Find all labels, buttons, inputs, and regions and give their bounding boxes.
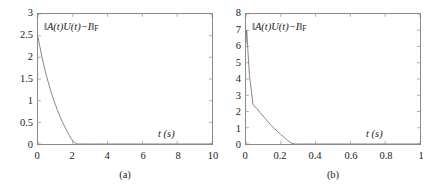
y-tick-label-a-3: 1.5	[8, 74, 33, 85]
x-tick-label-b-0: 0	[242, 151, 247, 162]
y-tick-label-b-7: 7	[220, 24, 241, 35]
y-tick-label-b-6: 6	[220, 41, 241, 52]
annot-b-subscript: F	[302, 24, 306, 33]
y-tick-label-b-5: 5	[220, 57, 241, 68]
plot-canvas-b	[246, 14, 420, 144]
y-tick-label-a-2: 1	[8, 96, 33, 107]
panel-b: 0 1 2 3 4 5 6 7 8 0 0.2 0.4 0.6 0.8 1 t …	[222, 0, 444, 186]
y-tick-label-b-0: 0	[220, 140, 241, 151]
plot-annotation-a: ‖A(t)U(t)−I‖F	[44, 21, 98, 33]
y-tick-label-b-2: 2	[220, 107, 241, 118]
y-tick-label-b-4: 4	[220, 74, 241, 85]
panel-a: 0 0.5 1 1.5 2 2.5 3 0 2 4 6 8 10 t (s) ‖…	[0, 0, 222, 186]
x-axis-label-a: t (s)	[158, 128, 175, 139]
x-tick-label-a-3: 6	[140, 151, 145, 162]
plot-canvas-a	[38, 14, 212, 144]
x-tick-label-b-4: 0.8	[379, 151, 392, 162]
x-tick-label-a-2: 4	[104, 151, 109, 162]
x-tick-label-a-4: 8	[175, 151, 180, 162]
caption-a: (a)	[119, 169, 131, 180]
annot-b-expression: A(t)U(t)−I	[255, 21, 299, 32]
y-tick-label-a-6: 3	[8, 8, 33, 19]
plot-annotation-b: ‖A(t)U(t)−I‖F	[252, 21, 306, 33]
annot-a-subscript: F	[94, 24, 98, 33]
y-tick-label-a-1: 0.5	[8, 118, 33, 129]
x-tick-label-b-3: 0.6	[344, 151, 357, 162]
x-tick-label-a-5: 10	[208, 151, 219, 162]
annot-a-expression: A(t)U(t)−I	[47, 21, 91, 32]
caption-b: (b)	[327, 169, 339, 180]
x-tick-label-a-0: 0	[34, 151, 39, 162]
x-axis-label-b: t (s)	[366, 128, 383, 139]
y-tick-label-b-8: 8	[220, 8, 241, 19]
x-tick-label-b-5: 1	[418, 151, 423, 162]
y-tick-label-a-4: 2	[8, 52, 33, 63]
x-tick-label-b-1: 0.2	[273, 151, 286, 162]
y-tick-label-b-3: 3	[220, 90, 241, 101]
y-tick-label-b-1: 1	[220, 123, 241, 134]
figure-container: 0 0.5 1 1.5 2 2.5 3 0 2 4 6 8 10 t (s) ‖…	[0, 0, 444, 186]
y-tick-label-a-0: 0	[8, 140, 33, 151]
y-tick-label-a-5: 2.5	[8, 30, 33, 41]
x-tick-label-b-2: 0.4	[308, 151, 321, 162]
x-tick-label-a-1: 2	[69, 151, 74, 162]
